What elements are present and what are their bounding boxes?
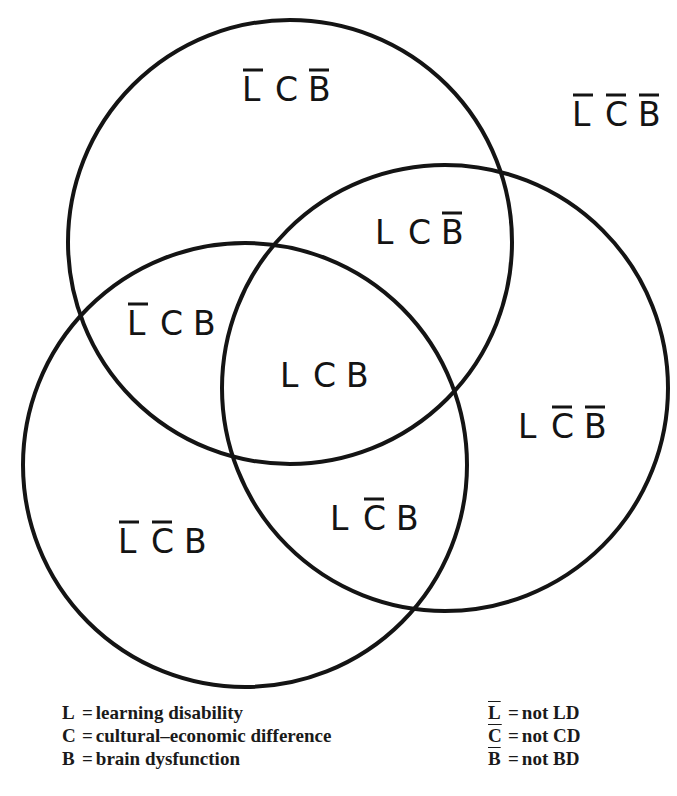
region-label-top-right: LCB (375, 213, 473, 252)
region-letter: L (518, 407, 545, 446)
legend-key: B (488, 747, 508, 770)
legend-left: L=learning disability C=cultural–economi… (62, 701, 331, 770)
venn-region-labels: LCBLCBLCBLCBLCBLCBLCBLCB (118, 70, 670, 561)
legend-key: L (488, 701, 508, 724)
region-letter: L (242, 70, 269, 109)
region-letter: L (280, 356, 307, 395)
region-letter: C (313, 356, 345, 395)
region-letter: B (184, 522, 216, 561)
region-letter: B (193, 304, 225, 343)
legend-text: not LD (522, 702, 580, 723)
legend-text: brain dysfunction (96, 748, 240, 769)
legend-key: C (62, 724, 82, 747)
legend-key: L (62, 701, 82, 724)
legend-row-l: L=learning disability (62, 701, 331, 724)
legend-equals: = (82, 701, 93, 724)
region-letter: C (275, 70, 307, 109)
region-letter: L (375, 213, 402, 252)
region-letter: C (363, 499, 395, 538)
region-letter: L (118, 522, 145, 561)
region-letter: C (408, 213, 440, 252)
region-letter: C (605, 95, 637, 134)
legend-row-not-l: L=not LD (488, 701, 580, 724)
region-label-center: LCB (280, 356, 378, 395)
region-label-outside: LCB (572, 95, 670, 134)
region-letter: C (151, 522, 183, 561)
legend-key: C (488, 724, 508, 747)
region-label-right-only: LCB (518, 407, 616, 446)
region-label-bottom-right: LCB (330, 499, 428, 538)
venn-diagram: LCBLCBLCBLCBLCBLCBLCBLCB (0, 0, 677, 700)
legend-text: learning disability (96, 702, 243, 723)
legend-equals: = (82, 747, 93, 770)
region-label-bottom-left-only: LCB (118, 522, 216, 561)
region-letter: L (330, 499, 357, 538)
region-letter: B (584, 407, 616, 446)
legend-equals: = (508, 701, 519, 724)
legend-right: L=not LD C=not CD B=not BD (488, 701, 580, 770)
region-label-top-left: LCB (127, 304, 225, 343)
legend-row-not-c: C=not CD (488, 724, 580, 747)
legend-equals: = (508, 724, 519, 747)
legend-row-b: B=brain dysfunction (62, 747, 331, 770)
legend-text: cultural–economic difference (96, 725, 332, 746)
legend-text: not BD (522, 748, 580, 769)
legend-row-not-b: B=not BD (488, 747, 580, 770)
region-label-top-only: LCB (242, 70, 340, 109)
region-letter: C (551, 407, 583, 446)
legend-equals: = (82, 724, 93, 747)
region-letter: L (572, 95, 599, 134)
legend-key: B (62, 747, 82, 770)
legend-text: not CD (522, 725, 581, 746)
legend-equals: = (508, 747, 519, 770)
legend-row-c: C=cultural–economic difference (62, 724, 331, 747)
region-letter: B (441, 213, 473, 252)
region-letter: B (396, 499, 428, 538)
circle-bottom-left (23, 243, 467, 687)
region-letter: B (308, 70, 340, 109)
region-letter: C (160, 304, 192, 343)
region-letter: B (346, 356, 378, 395)
region-letter: L (127, 304, 154, 343)
region-letter: B (638, 95, 670, 134)
